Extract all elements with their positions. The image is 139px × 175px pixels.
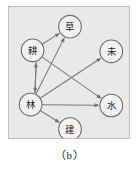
node-lin[interactable]: 林 (19, 93, 42, 116)
edge-lin-to-geng-arrowhead (34, 62, 38, 67)
node-wei-label: 未 (107, 46, 117, 57)
node-shui-label: 水 (107, 100, 117, 111)
edge-lin-to-shui (42, 103, 100, 107)
edge-lin-to-jian (40, 111, 60, 123)
edge-lin-to-wei-arrowhead (96, 58, 101, 62)
node-cao-label: 草 (65, 21, 74, 32)
figure-panel-b: 草耕未林水建 （b） (0, 0, 139, 175)
node-cao[interactable]: 草 (59, 15, 82, 38)
node-geng-label: 耕 (28, 45, 37, 56)
figure-caption: （b） (0, 146, 139, 162)
node-shui[interactable]: 水 (100, 94, 123, 117)
node-wei[interactable]: 未 (100, 40, 123, 63)
edge-lin-to-shui-arrowhead (94, 103, 99, 107)
node-jian-label: 建 (65, 124, 74, 135)
edge-lin-to-jian-arrowhead (55, 119, 60, 123)
edge-geng-to-cao (42, 33, 60, 44)
edge-geng-to-cao-arrowhead (55, 33, 60, 37)
node-lin-label: 林 (26, 99, 36, 110)
land-use-transition-graph: 草耕未林水建 (9, 7, 129, 138)
edge-geng-to-shui-arrowhead (96, 94, 101, 99)
diagram-panel: 草耕未林水建 (8, 6, 130, 139)
node-geng[interactable]: 耕 (21, 39, 44, 62)
node-jian[interactable]: 建 (59, 118, 82, 138)
edge-lin-to-cao-arrowhead (61, 37, 65, 42)
